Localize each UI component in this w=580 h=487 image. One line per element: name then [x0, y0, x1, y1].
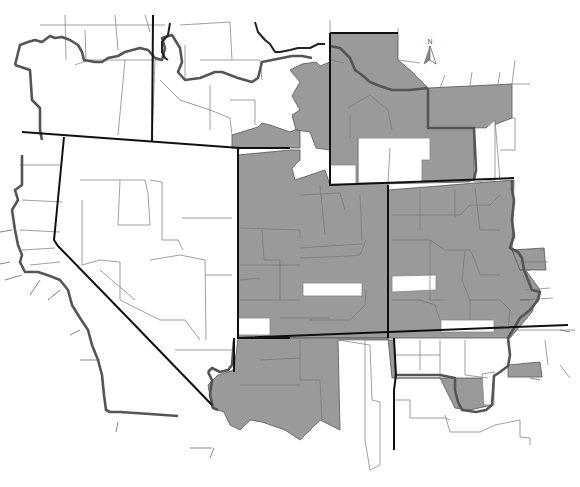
north-arrow-glyph [423, 46, 437, 66]
map: N [0, 0, 580, 487]
shaded-regions [208, 33, 546, 440]
north-arrow-icon: N [423, 38, 437, 68]
map-canvas [0, 0, 580, 487]
rivers [162, 22, 325, 60]
north-label: N [423, 38, 437, 46]
